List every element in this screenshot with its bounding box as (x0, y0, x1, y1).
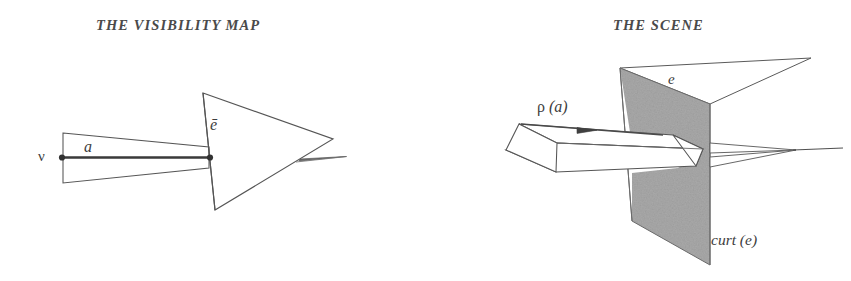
scene-exit-ray (793, 148, 843, 150)
label-beam-rho-a: ρ (a) (537, 99, 568, 115)
scene-geometry (506, 58, 843, 265)
label-beam-arg: (a) (545, 98, 568, 115)
label-edge-e: e (668, 72, 675, 87)
label-curtain-curt-e: curt (e) (711, 232, 757, 248)
figure-root: THE VISIBILITY MAP THE SCENE (0, 0, 851, 281)
label-beam-rho-glyph: ρ (537, 98, 545, 115)
